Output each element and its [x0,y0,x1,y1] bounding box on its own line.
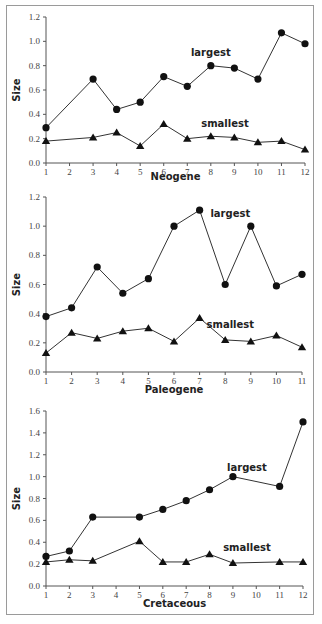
circle-marker [247,223,254,230]
series-line-smallest [46,124,305,150]
figure: 0.00.20.40.60.81.01.2123456789101112Neog… [0,0,322,624]
x-axis-title: Neogene [151,171,201,182]
circle-marker [159,506,166,513]
circle-marker [183,497,190,504]
circle-marker [276,483,283,490]
x-tick-label: 10 [272,376,282,386]
x-tick-label: 10 [252,590,262,600]
y-tick-label: 1.4 [29,428,41,438]
y-tick-label: 0.8 [29,250,41,260]
x-tick-label: 1 [44,167,49,177]
x-tick-label: 11 [275,590,284,600]
chart-cretaceous: 0.00.20.40.60.81.01.21.41.61234567891011… [11,406,308,609]
y-tick-label: 0.6 [29,85,41,95]
x-tick-label: 4 [121,376,126,386]
circle-marker [66,547,73,554]
x-tick-label: 12 [301,167,310,177]
circle-marker [273,282,280,289]
x-tick-label: 5 [138,167,143,177]
y-tick-label: 0.4 [29,109,41,119]
y-tick-label: 0.0 [29,158,41,168]
circle-marker [89,75,96,82]
x-tick-label: 4 [114,590,119,600]
triangle-marker [144,324,152,331]
x-tick-label: 1 [44,376,49,386]
circle-marker [42,313,49,320]
circle-marker [254,75,261,82]
x-tick-label: 8 [207,590,212,600]
series-label-largest: largest [227,462,267,473]
y-tick-label: 0.2 [29,338,40,348]
series-label-smallest: smallest [223,542,271,553]
circle-marker [222,281,229,288]
x-tick-label: 8 [223,376,228,386]
circle-marker [299,418,306,425]
triangle-marker [65,556,73,563]
triangle-marker [112,129,120,136]
x-tick-label: 10 [253,167,263,177]
x-tick-label: 4 [114,167,119,177]
triangle-marker [205,550,213,557]
triangle-marker [67,329,75,336]
circle-marker [278,29,285,36]
y-tick-label: 1.0 [29,36,41,46]
x-tick-label: 3 [95,376,100,386]
chart-neogene: 0.00.20.40.60.81.01.2123456789101112Neog… [11,12,310,182]
circle-marker [137,99,144,106]
y-axis-title: Size [11,487,22,510]
triangle-marker [301,146,309,153]
x-tick-label: 9 [249,376,254,386]
circle-marker [113,106,120,113]
y-tick-label: 1.0 [29,221,41,231]
x-tick-label: 2 [67,167,72,177]
circle-marker [160,73,167,80]
circle-marker [184,83,191,90]
y-tick-label: 1.6 [29,406,41,416]
y-tick-label: 0.8 [29,61,41,71]
x-tick-label: 9 [232,167,237,177]
triangle-marker [195,314,203,321]
y-tick-label: 1.0 [29,472,41,482]
series-line-largest [46,33,305,128]
circle-marker [136,513,143,520]
circle-marker [206,486,213,493]
y-axis-title: Size [11,78,22,101]
circle-marker [68,304,75,311]
circle-marker [94,263,101,270]
x-tick-label: 5 [137,590,142,600]
circle-marker [119,290,126,297]
x-tick-label: 3 [90,590,95,600]
circle-marker [231,65,238,72]
y-tick-label: 0.4 [29,537,41,547]
x-tick-label: 9 [231,590,236,600]
circle-marker [196,207,203,214]
triangle-marker [207,132,215,139]
x-tick-label: 12 [299,590,308,600]
y-tick-label: 0.0 [29,367,41,377]
x-tick-label: 2 [69,376,74,386]
circle-marker [42,124,49,131]
triangle-marker [135,537,143,544]
y-axis-title: Size [11,273,22,296]
x-axis-title: Cretaceous [143,598,206,609]
x-axis-title: Paleogene [145,384,204,395]
x-tick-label: 1 [44,590,49,600]
circle-marker [170,223,177,230]
y-tick-label: 0.2 [29,134,40,144]
chart-paleogene: 0.00.20.40.60.81.01.21234567891011Paleog… [11,192,306,395]
x-tick-label: 8 [209,167,214,177]
series-label-largest: largest [210,208,250,219]
series-label-smallest: smallest [207,319,255,330]
triangle-marker [277,137,285,144]
circle-marker [207,62,214,69]
x-tick-label: 3 [91,167,96,177]
circle-marker [298,271,305,278]
circle-marker [89,513,96,520]
y-tick-label: 0.6 [29,515,41,525]
circle-marker [301,40,308,47]
circle-marker [145,275,152,282]
y-tick-label: 1.2 [29,192,40,202]
series-line-smallest [46,318,302,353]
circle-marker [229,473,236,480]
x-tick-label: 11 [298,376,307,386]
